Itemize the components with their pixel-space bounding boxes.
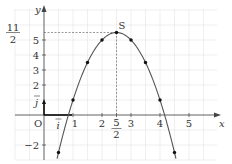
parabola-plot: 12345−2234552112SxyOij <box>0 0 232 164</box>
y-special-numerator: 11 <box>7 22 20 33</box>
y-tick-label: 3 <box>33 65 39 76</box>
curve-point <box>57 151 60 154</box>
curve-point <box>158 98 161 101</box>
unit-vector-j-label: j <box>33 97 38 108</box>
curve-point <box>129 38 132 41</box>
x-axis-label: x <box>219 118 225 129</box>
y-axis-arrow-icon <box>42 5 47 12</box>
x-tick-label: 3 <box>128 118 134 129</box>
x-axis-arrow-icon <box>214 113 221 118</box>
origin-label: O <box>34 118 42 129</box>
y-tick-label: 2 <box>33 80 39 91</box>
x-tick-label: 2 <box>99 118 105 129</box>
curve-point <box>86 61 89 64</box>
x-tick-label: 5 <box>186 118 192 129</box>
unit-vector-i-label: i <box>57 120 60 131</box>
curve-point <box>100 38 103 41</box>
curve-group <box>44 31 176 159</box>
x-tick-label: 4 <box>157 118 163 129</box>
x-special-denominator: 2 <box>113 129 119 140</box>
x-special-numerator: 5 <box>113 117 119 128</box>
y-tick-label: 4 <box>33 50 39 61</box>
x-tick-label: 1 <box>72 118 78 129</box>
y-special-denominator: 2 <box>10 34 16 45</box>
curve-point <box>173 151 176 154</box>
curve-point <box>144 61 147 64</box>
curve-point <box>115 31 118 34</box>
vertex-label: S <box>119 20 126 31</box>
y-tick-label: 5 <box>33 35 39 46</box>
labels: 12345−2234552112SxyOij <box>6 4 225 151</box>
curve-point <box>71 98 74 101</box>
y-tick-label: −2 <box>24 140 39 151</box>
y-axis-label: y <box>34 4 41 15</box>
